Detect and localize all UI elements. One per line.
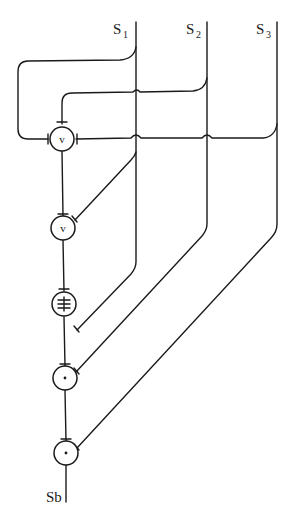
input-label-s2: S 2 [186, 21, 201, 40]
input-label-s1: S 1 [113, 21, 128, 40]
svg-text:3: 3 [266, 29, 271, 40]
chain-n4-n5 [65, 390, 66, 441]
svg-text:2: 2 [196, 29, 201, 40]
s1-branch-to-node2 [75, 152, 136, 220]
svg-text:S: S [256, 21, 264, 37]
diagram-canvas: S 1 S 2 S 3 v [0, 0, 295, 529]
s3-line [77, 22, 277, 448]
or-symbol-icon: v [60, 222, 66, 234]
chain-n3-n4 [64, 317, 65, 366]
chain-n1-n2 [62, 151, 63, 216]
or-symbol-icon: v [59, 133, 65, 145]
and-dot-icon [64, 377, 67, 380]
input-label-s3: S 3 [256, 21, 271, 40]
output-label-sb: Sb [46, 489, 62, 505]
chain-n2-n3 [63, 240, 64, 291]
svg-text:1: 1 [123, 29, 128, 40]
svg-text:S: S [113, 21, 121, 37]
node-2-or: v [51, 216, 75, 240]
node-3-xor [52, 292, 76, 316]
and-dot-icon [65, 452, 68, 455]
svg-text:S: S [186, 21, 194, 37]
s3-branch-to-node1 [76, 124, 277, 139]
node-4-and [53, 366, 77, 390]
s1-line [77, 22, 136, 330]
node-1-or: v [50, 127, 74, 151]
s2-branch-to-node1 [62, 78, 207, 124]
node-5-and [54, 441, 78, 465]
